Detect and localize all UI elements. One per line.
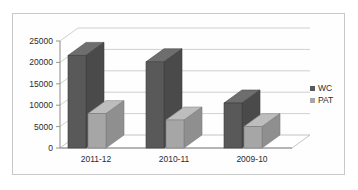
y-tick-label: 0 xyxy=(48,143,53,153)
y-tick-labels: 25000 20000 15000 10000 5000 0 xyxy=(29,36,53,153)
legend-item-wc[interactable]: WC xyxy=(310,83,332,93)
legend-label-wc: WC xyxy=(318,83,332,93)
x-tick-label: 2010-11 xyxy=(159,154,190,164)
legend-label-pat: PAT xyxy=(318,95,333,105)
chart-legend: WC PAT xyxy=(310,83,333,105)
x-tick-label: 2011-12 xyxy=(81,154,112,164)
y-axis xyxy=(56,41,60,148)
y-tick-label: 10000 xyxy=(29,100,53,110)
bar-group-2009-10 xyxy=(224,90,280,148)
legend-swatch-wc xyxy=(310,86,315,91)
legend-item-pat[interactable]: PAT xyxy=(310,95,333,105)
bar-group-2011-12 xyxy=(68,42,124,148)
y-tick-label: 25000 xyxy=(29,36,53,46)
y-tick-label: 15000 xyxy=(29,79,53,89)
chart-container: 25000 20000 15000 10000 5000 0 xyxy=(0,0,358,190)
bar-chart-3d: 25000 20000 15000 10000 5000 0 xyxy=(0,0,358,190)
legend-swatch-pat xyxy=(310,98,315,103)
y-tick-label: 20000 xyxy=(29,57,53,67)
x-tick-labels: 2011-12 2010-11 2009-10 xyxy=(81,154,268,164)
gridline-25000 xyxy=(60,28,310,41)
x-tick-label: 2009-10 xyxy=(236,154,267,164)
bar-group-2010-11 xyxy=(146,49,202,148)
y-tick-label: 5000 xyxy=(34,122,53,132)
